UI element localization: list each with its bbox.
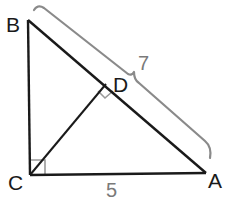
measure-label-ca: 5: [106, 179, 117, 200]
vertex-label-a: A: [208, 169, 222, 192]
vertex-label-c: C: [8, 171, 23, 194]
vertex-label-b: B: [6, 13, 20, 36]
altitude-cd: [30, 84, 106, 175]
measure-label-ba: 7: [138, 52, 149, 74]
segment-ba: [28, 20, 206, 173]
segment-ca: [30, 173, 206, 175]
vertex-label-d: D: [113, 73, 128, 96]
triangle-diagram: B C A D 7 5: [0, 0, 233, 200]
segment-bc: [28, 20, 30, 175]
